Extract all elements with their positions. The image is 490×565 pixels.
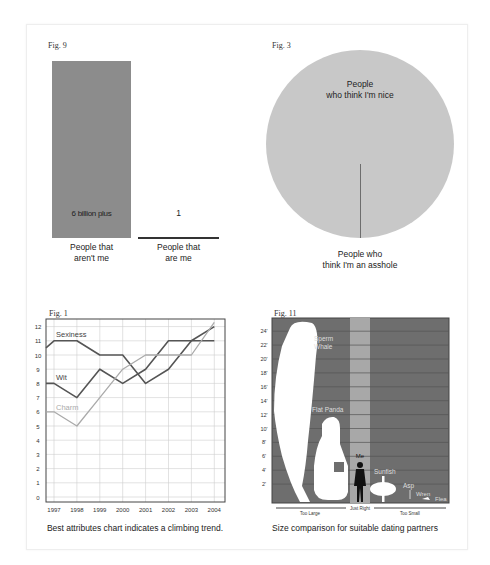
fig1-line-chart: 0123456789101112199719981999200020012002… xyxy=(30,316,230,516)
x-tick-label: 1998 xyxy=(70,507,84,513)
fig9-bar1-label-line1: People that xyxy=(50,242,133,253)
x-tick-label: 2002 xyxy=(162,507,176,513)
x-tick-label: 2000 xyxy=(116,507,130,513)
fig9-bar2-label-line2: are me xyxy=(136,253,221,264)
y-tick-label: 2' xyxy=(262,481,266,487)
y-tick-label: 8 xyxy=(36,381,40,387)
sunfish-fin xyxy=(382,476,385,502)
x-tick-label: 1999 xyxy=(93,507,107,513)
x-tick-label: 2001 xyxy=(139,507,153,513)
fig3-big-slice-label: People who think I'm nice xyxy=(300,79,420,101)
y-tick-label: 4 xyxy=(36,438,40,444)
fig1-caption: Best attributes chart indicates a climbi… xyxy=(30,523,240,533)
y-tick-label: 24' xyxy=(260,328,267,334)
fig3-small-slice-line2: think I'm an asshole xyxy=(300,260,420,271)
y-tick-label: 8' xyxy=(262,439,266,445)
y-tick-label: 16' xyxy=(260,384,267,390)
fig9-label: Fig. 9 xyxy=(48,41,67,50)
y-tick-label: 3 xyxy=(36,452,40,458)
fig9-bar2-label-line1: People that xyxy=(136,242,221,253)
y-tick-label: 14' xyxy=(260,398,267,404)
y-tick-label: 5 xyxy=(36,424,40,430)
label-sperm-whale: Sperm xyxy=(314,335,333,343)
zone-too-large: Too Large xyxy=(300,511,321,516)
y-tick-label: 12 xyxy=(35,324,42,330)
label-flea: Flea xyxy=(435,496,447,502)
y-tick-label: 9 xyxy=(36,367,40,373)
label-me: Me xyxy=(356,453,365,459)
series-label-wit: Wit xyxy=(56,373,68,382)
y-tick-label: 2 xyxy=(36,466,40,472)
fig9-bar2-value: 1 xyxy=(138,208,219,219)
y-tick-label: 10 xyxy=(35,353,42,359)
fig9-bar1-value: 6 billion plus xyxy=(52,208,131,219)
series-label-charm: Charm xyxy=(56,403,79,412)
y-tick-label: 0 xyxy=(36,495,40,501)
x-tick-label: 1997 xyxy=(47,507,61,513)
label-sunfish: Sunfish xyxy=(374,468,396,475)
fig3-big-slice-line1: People xyxy=(300,79,420,90)
series-label-sexiness: Sexiness xyxy=(56,330,87,339)
fig11-caption: Size comparison for suitable dating part… xyxy=(250,523,460,533)
y-tick-label: 22' xyxy=(260,342,267,348)
me-head xyxy=(357,462,363,468)
x-tick-label: 2004 xyxy=(208,507,222,513)
y-tick-label: 6 xyxy=(36,409,40,415)
fig9-bar-me xyxy=(138,237,219,239)
fig9-bar2-label: People that are me xyxy=(136,242,221,264)
fig3-small-slice-line1: People who xyxy=(300,249,420,260)
label-asp: Asp xyxy=(403,482,415,490)
fig11-size-chart: 2'4'6'8'10'12'14'16'18'20'22'24'SpermWha… xyxy=(250,316,460,518)
panda-window xyxy=(334,462,344,472)
y-tick-label: 1 xyxy=(36,480,40,486)
y-tick-label: 18' xyxy=(260,370,267,376)
y-tick-label: 20' xyxy=(260,356,267,362)
label-wren: Wren xyxy=(416,491,430,497)
y-tick-label: 7 xyxy=(36,395,40,401)
fig9-bar1-label: People that aren't me xyxy=(50,242,133,264)
label-flat-panda: Flat Panda xyxy=(312,406,344,413)
fig3-big-slice-line2: who think I'm nice xyxy=(300,90,420,101)
fig3-pie xyxy=(262,46,462,246)
fig9-bar1-label-line2: aren't me xyxy=(50,253,133,264)
fig3-small-slice-label: People who think I'm an asshole xyxy=(300,249,420,271)
y-tick-label: 12' xyxy=(260,412,267,418)
y-tick-label: 4' xyxy=(262,467,266,473)
y-tick-label: 10' xyxy=(260,426,267,432)
y-tick-label: 11 xyxy=(35,338,42,344)
zone-just-right: Just Right xyxy=(350,506,371,511)
y-tick-label: 6' xyxy=(262,453,266,459)
x-tick-label: 2003 xyxy=(185,507,199,513)
label-sperm-whale-2: Whale xyxy=(314,343,333,350)
zone-too-small: Too Small xyxy=(400,511,420,516)
